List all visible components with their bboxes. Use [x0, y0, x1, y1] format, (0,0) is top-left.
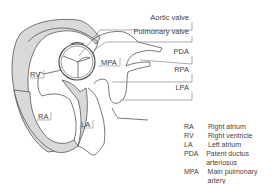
legend-text: Right atrium — [208, 122, 246, 131]
legend-row: RVRight ventricle — [184, 131, 276, 140]
legend-row: LALeft atrium — [184, 140, 276, 149]
callout-aortic-valve: Aortic valve — [150, 14, 189, 22]
aortic-root-circle — [59, 44, 95, 80]
legend-abbr: LA — [184, 140, 208, 149]
legend-row: MPAMain pulmonary artery — [184, 167, 276, 184]
legend-text: Left atrium — [208, 140, 241, 149]
legend-row: RARight atrium — [184, 122, 276, 131]
legend-abbr: RA — [184, 122, 208, 131]
legend-text: Main pulmonary artery — [208, 167, 276, 184]
callout-rpa: RPA — [174, 66, 189, 74]
legend-abbr: PDA — [184, 149, 206, 167]
legend-text: Patent ductus arteriosus — [206, 149, 276, 167]
label-rv: RV — [30, 71, 40, 79]
label-la: LA — [81, 121, 90, 129]
callout-lpa: LPA — [175, 84, 189, 92]
legend-abbr: RV — [184, 131, 208, 140]
callout-pulmonary-valve: Pulmonary valve — [134, 28, 189, 36]
descending-vessel — [112, 108, 148, 120]
legend: RARight atrium RVRight ventricle LALeft … — [184, 122, 276, 184]
legend-text: Right ventricle — [208, 131, 252, 140]
outer-heart-wall — [12, 19, 100, 152]
legend-abbr: MPA — [184, 167, 208, 184]
legend-row: PDAPatent ductus arteriosus — [184, 149, 276, 167]
label-ra: RA — [38, 113, 48, 121]
label-mpa: MPA — [101, 59, 117, 67]
callout-pda: PDA — [174, 48, 189, 56]
